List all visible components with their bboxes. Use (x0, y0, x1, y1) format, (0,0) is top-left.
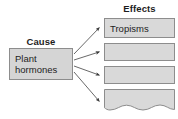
effect-node-box-4 (104, 89, 175, 119)
cause-effect-diagram: Cause Effects Plant hormones Tropisms (0, 0, 178, 119)
